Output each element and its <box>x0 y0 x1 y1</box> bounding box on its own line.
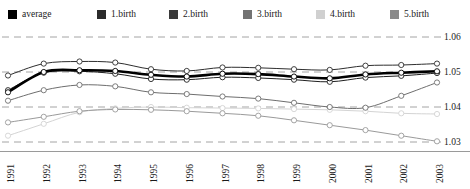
y-axis-tick-label: 1.03 <box>444 137 461 147</box>
data-point-marker <box>327 67 332 72</box>
legend-item-2-birth[interactable]: 2.birth <box>169 7 208 21</box>
chart-svg <box>0 26 470 154</box>
data-point-marker <box>434 61 439 66</box>
series-4-birth <box>5 104 439 138</box>
legend-label: 1.birth <box>111 9 136 19</box>
x-axis-tick-1993: 1993 <box>74 153 86 187</box>
data-point-marker <box>41 61 46 66</box>
legend-item-4-birth[interactable]: 4.birth <box>316 7 355 21</box>
data-point-marker <box>113 84 118 89</box>
data-point-marker <box>41 121 46 126</box>
x-axis-tick-2001: 2001 <box>360 153 372 187</box>
x-axis: 1991199219931994199519961997199819992000… <box>0 153 470 189</box>
legend-item-3-birth[interactable]: 3.birth <box>243 7 282 21</box>
x-axis-tick-label: 1993 <box>78 164 88 183</box>
x-axis-tick-label: 1999 <box>292 164 302 183</box>
data-point-marker <box>220 94 225 99</box>
x-axis-tick-label: 2002 <box>399 164 409 183</box>
x-axis-tick-1995: 1995 <box>145 153 157 187</box>
data-point-marker <box>256 113 261 118</box>
data-point-marker <box>256 65 261 70</box>
data-point-marker <box>399 111 404 116</box>
legend-item-average[interactable]: average <box>8 7 52 21</box>
data-point-marker <box>363 105 368 110</box>
data-point-marker <box>363 72 368 77</box>
data-point-marker <box>291 100 296 105</box>
data-point-marker <box>148 72 153 77</box>
data-point-marker <box>77 109 82 114</box>
data-point-marker <box>113 68 118 73</box>
chart-legend: average1.birth2.birth3.birth4.birth5.bir… <box>0 0 470 26</box>
x-axis-tick-label: 1995 <box>149 164 159 183</box>
legend-swatch-icon <box>243 10 252 19</box>
chart-container: average1.birth2.birth3.birth4.birth5.bir… <box>0 0 470 189</box>
data-point-marker <box>77 68 82 73</box>
y-axis-tick-label: 1.05 <box>444 67 461 77</box>
data-point-marker <box>113 60 118 65</box>
data-point-marker <box>5 133 10 138</box>
data-point-marker <box>220 105 225 110</box>
data-point-marker <box>220 71 225 76</box>
legend-swatch-icon <box>316 10 325 19</box>
data-point-marker <box>291 118 296 123</box>
data-point-marker <box>291 74 296 79</box>
x-axis-tick-label: 1992 <box>42 164 52 183</box>
data-point-marker <box>184 68 189 73</box>
data-point-marker <box>5 120 10 125</box>
data-point-marker <box>399 70 404 75</box>
data-point-marker <box>363 128 368 133</box>
data-point-marker <box>148 107 153 112</box>
x-axis-tick-label: 1994 <box>113 164 123 183</box>
data-point-marker <box>434 69 439 74</box>
data-point-marker <box>41 69 46 74</box>
x-axis-tick-1999: 1999 <box>288 153 300 187</box>
data-point-marker <box>220 65 225 70</box>
legend-label: 4.birth <box>330 9 355 19</box>
x-axis-tick-1996: 1996 <box>181 153 193 187</box>
x-axis-tick-1997: 1997 <box>217 153 229 187</box>
plot-area <box>0 26 470 154</box>
y-axis-tick-label: 1.04 <box>444 102 461 112</box>
data-point-marker <box>434 80 439 85</box>
legend-swatch-icon <box>169 10 178 19</box>
data-point-marker <box>256 106 261 111</box>
data-point-marker <box>5 98 10 103</box>
x-axis-tick-label: 2000 <box>328 164 338 183</box>
data-point-marker <box>148 67 153 72</box>
data-point-marker <box>184 74 189 79</box>
data-point-marker <box>399 62 404 67</box>
legend-label: 3.birth <box>257 9 282 19</box>
x-axis-tick-label: 1991 <box>6 164 16 183</box>
data-point-marker <box>399 93 404 98</box>
data-point-marker <box>327 76 332 81</box>
y-axis-tick-label: 1.06 <box>444 32 461 42</box>
data-point-marker <box>184 109 189 114</box>
data-point-marker <box>220 111 225 116</box>
x-axis-tick-1994: 1994 <box>109 153 121 187</box>
data-point-marker <box>434 139 439 144</box>
legend-swatch-icon <box>97 10 106 19</box>
data-point-marker <box>184 91 189 96</box>
x-axis-tick-label: 1996 <box>185 164 195 183</box>
data-point-marker <box>256 72 261 77</box>
data-point-marker <box>256 96 261 101</box>
data-point-marker <box>41 88 46 93</box>
series-5-birth <box>5 107 439 144</box>
data-point-marker <box>291 67 296 72</box>
x-axis-tick-1992: 1992 <box>38 153 50 187</box>
legend-item-1-birth[interactable]: 1.birth <box>97 7 136 21</box>
data-point-marker <box>399 133 404 138</box>
data-point-marker <box>5 73 10 78</box>
legend-label: 2.birth <box>183 9 208 19</box>
x-axis-tick-label: 1998 <box>256 164 266 183</box>
data-point-marker <box>77 59 82 64</box>
legend-item-5-birth[interactable]: 5.birth <box>390 7 429 21</box>
data-point-marker <box>291 107 296 112</box>
data-point-marker <box>113 107 118 112</box>
data-point-marker <box>41 114 46 119</box>
data-point-marker <box>327 123 332 128</box>
legend-swatch-icon <box>390 10 399 19</box>
data-point-marker <box>148 90 153 95</box>
x-axis-tick-2002: 2002 <box>395 153 407 187</box>
data-point-marker <box>5 90 10 95</box>
